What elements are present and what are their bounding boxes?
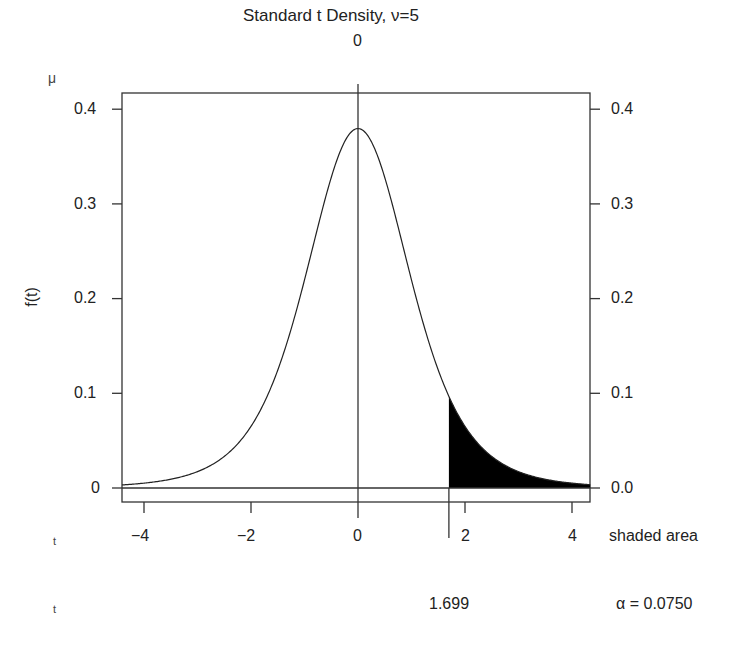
y-tick-label-right: 0.4 — [611, 100, 633, 118]
x-tick-label: −2 — [237, 527, 255, 545]
y-axis-ticks — [112, 109, 600, 488]
y-tick-label-left: 0.2 — [74, 289, 96, 307]
y-tick-label-right: 0.1 — [611, 384, 633, 402]
t-density-plot — [0, 0, 754, 646]
y-tick-label-left: 0 — [91, 479, 100, 497]
x-tick-label: 2 — [461, 527, 470, 545]
y-tick-label-left: 0.1 — [74, 384, 96, 402]
x-tick-label: 0 — [353, 527, 362, 545]
mu-label: μ — [48, 70, 56, 86]
shaded-tail-area — [449, 396, 590, 488]
y-tick-label-right: 0.0 — [611, 479, 633, 497]
t-row-label: t — [53, 603, 56, 615]
shaded-area-label: shaded area — [609, 527, 698, 545]
critical-value-label: 1.699 — [429, 595, 469, 613]
x-tick-label: −4 — [131, 527, 149, 545]
y-tick-label-right: 0.3 — [611, 195, 633, 213]
y-tick-label-left: 0.4 — [74, 100, 96, 118]
alpha-label: α = 0.0750 — [616, 595, 692, 613]
y-tick-label-left: 0.3 — [74, 195, 96, 213]
chart-title: Standard t Density, ν=5 — [243, 6, 419, 26]
x-tick-label: 4 — [568, 527, 577, 545]
y-tick-label-right: 0.2 — [611, 289, 633, 307]
top-axis-zero-label: 0 — [353, 32, 362, 50]
t-row-label: t — [53, 535, 56, 547]
density-curve — [122, 129, 590, 485]
y-axis-label: f(t) — [23, 287, 41, 307]
plot-frame — [122, 93, 590, 502]
